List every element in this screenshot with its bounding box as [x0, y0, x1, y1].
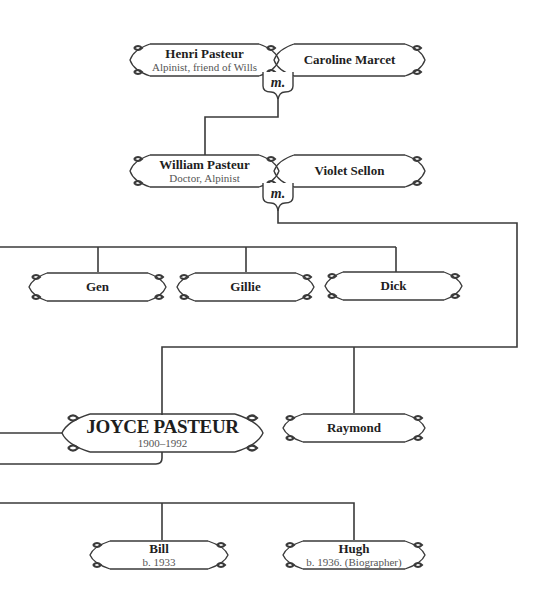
person-name: Henri Pasteur: [165, 47, 243, 61]
person-name: Raymond: [327, 421, 381, 435]
person-bill: Bill b. 1933: [88, 539, 230, 571]
person-gillie: Gillie: [175, 271, 316, 303]
person-note: Alpinist, friend of Wills: [152, 61, 257, 73]
person-name: Caroline Marcet: [304, 53, 396, 67]
person-dick: Dick: [323, 270, 464, 302]
person-name: JOYCE PASTEUR: [86, 417, 239, 437]
person-hugh: Hugh b. 1936. (Biographer): [281, 539, 427, 571]
person-gen: Gen: [27, 271, 168, 303]
person-william-pasteur: William Pasteur Doctor, Alpinist: [128, 153, 281, 189]
marriage-badge-gen2: m.: [261, 183, 295, 213]
person-henri-pasteur: Henri Pasteur Alpinist, friend of Wills: [128, 42, 281, 78]
person-raymond: Raymond: [281, 412, 427, 444]
person-name: Gen: [86, 280, 109, 294]
person-name: Bill: [149, 542, 169, 556]
person-name: Dick: [381, 279, 407, 293]
person-name: Hugh: [338, 542, 369, 556]
marriage-badge-gen1: m.: [261, 72, 295, 102]
person-violet-sellon: Violet Sellon: [272, 153, 427, 189]
marriage-label: m.: [261, 186, 295, 202]
person-dates: 1900–1992: [138, 437, 188, 449]
person-note: Doctor, Alpinist: [169, 172, 239, 184]
person-caroline-marcet: Caroline Marcet: [272, 42, 427, 78]
person-note: b. 1933: [143, 556, 176, 568]
person-name: William Pasteur: [159, 158, 249, 172]
person-name: Gillie: [230, 280, 260, 294]
person-note: b. 1936. (Biographer): [306, 556, 401, 568]
marriage-label: m.: [261, 75, 295, 91]
person-joyce-pasteur: JOYCE PASTEUR 1900–1992: [60, 412, 265, 454]
person-name: Violet Sellon: [315, 164, 385, 178]
